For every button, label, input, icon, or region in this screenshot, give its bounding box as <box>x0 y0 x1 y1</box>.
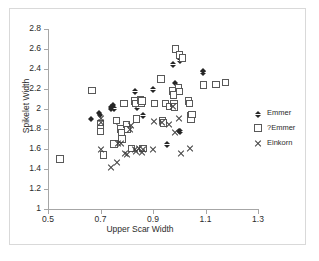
data-point-einkorn <box>127 122 135 130</box>
chart-legend: Emmer?EmmerEinkorn <box>258 106 306 151</box>
data-point-einkorn <box>169 102 177 110</box>
data-point-emmer <box>108 103 114 109</box>
data-point-emmer <box>97 125 104 132</box>
data-point-emmer <box>110 140 117 147</box>
data-point-einkorn <box>150 117 158 125</box>
data-point-emmer <box>172 45 179 52</box>
data-point-einkorn <box>165 121 173 129</box>
y-tick-label: 2.2 <box>10 84 41 93</box>
y-tick-label: 1.2 <box>10 184 41 193</box>
data-point-emmer <box>133 98 139 104</box>
data-point-emmer <box>123 121 130 128</box>
data-point-emmer <box>111 102 117 108</box>
data-point-emmer <box>187 116 194 123</box>
data-point-emmer <box>88 113 94 119</box>
data-point-emmer <box>222 79 229 86</box>
data-point-emmer <box>137 96 144 103</box>
data-point-emmer <box>118 135 125 142</box>
legend-item-emmer[interactable]: ?Emmer <box>258 121 306 136</box>
data-point-einkorn <box>97 118 105 126</box>
data-point-emmer <box>179 54 186 61</box>
data-point-emmer <box>185 97 192 104</box>
legend-item-emmer[interactable]: Emmer <box>258 106 306 121</box>
data-point-einkorn <box>149 145 157 153</box>
data-point-emmer <box>162 100 169 107</box>
x-axis-title: Upper Scar Width <box>10 224 270 234</box>
legend-label: Emmer <box>267 107 291 119</box>
data-point-emmer <box>131 97 138 104</box>
data-point-emmer <box>138 99 145 106</box>
y-tick-label: 2.6 <box>10 44 41 53</box>
data-point-emmer <box>113 117 120 124</box>
data-point-emmer <box>200 65 206 71</box>
x-tick-label: 1.3 <box>243 215 273 224</box>
data-point-emmer <box>186 100 193 107</box>
data-point-emmer <box>170 91 177 98</box>
y-tick-label: 1.6 <box>10 144 41 153</box>
data-point-einkorn <box>158 118 166 126</box>
data-point-emmer <box>160 119 167 126</box>
data-point-emmer <box>150 83 156 89</box>
y-tick-label: 1 <box>10 204 41 213</box>
data-point-emmer <box>110 99 116 105</box>
data-point-emmer <box>169 87 176 94</box>
data-point-emmer <box>175 84 182 91</box>
data-point-emmer <box>140 109 146 115</box>
legend-label: ?Emmer <box>267 122 295 134</box>
data-point-emmer <box>114 115 120 121</box>
data-point-einkorn <box>113 159 121 167</box>
data-point-emmer <box>100 151 107 158</box>
data-point-emmer <box>164 138 170 144</box>
x-tick-label: 0.5 <box>33 215 63 224</box>
data-point-einkorn <box>123 151 131 159</box>
data-point-emmer <box>172 77 178 83</box>
data-point-einkorn <box>114 140 122 148</box>
data-point-einkorn <box>131 145 139 153</box>
data-point-emmer <box>124 126 131 133</box>
legend-item-einkorn[interactable]: Einkorn <box>258 136 306 151</box>
data-point-emmer <box>170 58 176 64</box>
data-point-emmer <box>120 100 127 107</box>
chart-figure-frame: Spikelet Width Upper Scar Width 11.21.41… <box>9 8 306 245</box>
x-tick-label: 1.1 <box>191 215 221 224</box>
data-point-emmer <box>96 107 102 113</box>
scatter-plot-area <box>48 29 258 209</box>
data-point-emmer <box>176 51 183 58</box>
data-point-emmer <box>151 100 158 107</box>
data-point-emmer <box>97 120 104 127</box>
data-point-emmer <box>132 100 139 107</box>
data-point-emmer <box>133 115 140 122</box>
data-point-einkorn <box>171 128 179 136</box>
data-point-einkorn <box>97 145 105 153</box>
data-point-einkorn <box>121 149 129 157</box>
data-point-emmer <box>117 125 124 132</box>
data-point-emmer <box>97 109 103 115</box>
data-point-emmer <box>188 111 195 118</box>
data-point-emmer <box>171 103 178 110</box>
data-point-emmer <box>170 100 177 107</box>
data-point-einkorn <box>175 115 183 123</box>
data-point-emmer <box>128 145 135 152</box>
data-point-emmer <box>176 88 183 95</box>
data-point-emmer <box>134 101 140 107</box>
data-point-emmer <box>177 125 183 131</box>
data-point-emmer <box>56 155 63 162</box>
data-point-emmer <box>97 128 104 135</box>
data-point-einkorn <box>186 145 194 153</box>
data-point-emmer <box>138 97 145 104</box>
data-point-einkorn <box>139 145 147 153</box>
data-point-einkorn <box>126 126 134 134</box>
data-point-emmer <box>132 85 138 91</box>
data-point-einkorn <box>135 145 143 153</box>
data-point-einkorn <box>177 149 185 157</box>
data-point-emmer <box>139 145 146 152</box>
data-point-emmer <box>200 66 206 72</box>
y-tick-label: 2.8 <box>10 24 41 33</box>
data-point-emmer <box>200 81 207 88</box>
data-point-emmer <box>212 81 219 88</box>
data-point-emmer <box>159 117 166 124</box>
y-tick-label: 2 <box>10 104 41 113</box>
data-point-einkorn <box>117 139 125 147</box>
data-point-emmer <box>166 103 173 110</box>
data-point-emmer <box>118 129 125 136</box>
